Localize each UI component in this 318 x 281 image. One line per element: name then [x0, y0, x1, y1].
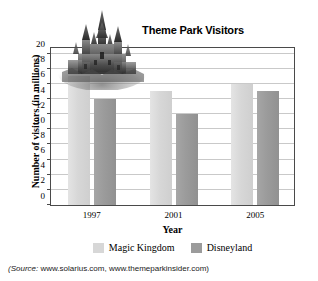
x-axis-title: Year: [50, 224, 295, 235]
y-tick-mark: [47, 143, 51, 144]
legend-entry-magic-kingdom[interactable]: Magic Kingdom: [93, 242, 175, 253]
y-tick-label: 6: [41, 145, 46, 155]
y-tick-mark: [47, 68, 51, 69]
chart-title: Theme Park Visitors: [108, 24, 278, 36]
chart-figure: Theme Park Visitors Number of visitors (…: [0, 0, 318, 281]
bar-magic-kingdom-2005: [231, 84, 253, 205]
y-tick-mark: [47, 83, 51, 84]
y-tick-mark: [47, 159, 51, 160]
bar-magic-kingdom-2001: [150, 91, 172, 205]
source-label: (Source:: [8, 264, 38, 273]
plot-area: 02468101214161820 199720012005: [50, 47, 295, 206]
y-tick-mark: [47, 189, 51, 190]
source-note: (Source: www.solarius.com, www.themepark…: [8, 264, 209, 273]
legend-label: Disneyland: [207, 242, 253, 253]
x-tick-label: 1997: [83, 210, 101, 220]
y-tick-label: 4: [41, 160, 46, 170]
legend-swatch: [191, 243, 202, 253]
y-tick-label: 16: [36, 69, 45, 79]
x-tick-label: 2005: [246, 210, 264, 220]
y-tick-mark: [47, 53, 51, 54]
legend-swatch: [93, 243, 104, 253]
y-tick-label: 8: [41, 130, 46, 140]
x-tick-label: 2001: [165, 210, 183, 220]
y-tick-mark: [47, 128, 51, 129]
bar-disneyland-1997: [94, 99, 116, 205]
gridline: [51, 68, 294, 69]
bar-magic-kingdom-1997: [68, 76, 90, 205]
y-tick-label: 2: [41, 175, 46, 185]
y-tick-mark: [47, 204, 51, 205]
source-urls: www.solarius.com, www.themeparkinsider.c…: [38, 264, 209, 273]
bar-disneyland-2005: [257, 91, 279, 205]
legend-label: Magic Kingdom: [109, 242, 175, 253]
y-tick-label: 20: [36, 39, 45, 49]
legend-entry-disneyland[interactable]: Disneyland: [191, 242, 253, 253]
y-tick-mark: [47, 113, 51, 114]
y-tick-mark: [47, 174, 51, 175]
bar-disneyland-2001: [176, 114, 198, 205]
y-tick-label: 18: [36, 54, 45, 64]
y-tick-label: 12: [36, 100, 45, 110]
y-tick-mark: [47, 98, 51, 99]
y-tick-label: 0: [41, 191, 46, 201]
y-tick-label: 10: [36, 115, 45, 125]
chart-legend: Magic KingdomDisneyland: [50, 242, 295, 253]
y-tick-label: 14: [36, 85, 45, 95]
gridline: [51, 53, 294, 54]
